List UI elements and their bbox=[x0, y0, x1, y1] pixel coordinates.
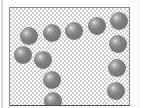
image-thumbnail[interactable] bbox=[9, 7, 130, 106]
sphere-shape bbox=[43, 24, 61, 42]
sphere-shape bbox=[43, 71, 61, 89]
sphere-shape bbox=[34, 51, 52, 69]
sphere-shape bbox=[88, 17, 106, 35]
sphere-shape bbox=[110, 12, 128, 30]
divider bbox=[1, 0, 3, 108]
sphere-shape bbox=[109, 35, 127, 53]
sphere-shape bbox=[108, 59, 126, 77]
sphere-shape bbox=[44, 92, 62, 106]
sphere-shape bbox=[65, 22, 83, 40]
divider bbox=[138, 0, 139, 108]
sphere-shape bbox=[20, 27, 38, 45]
sphere-shape bbox=[14, 46, 32, 64]
sphere-shape bbox=[107, 82, 125, 100]
